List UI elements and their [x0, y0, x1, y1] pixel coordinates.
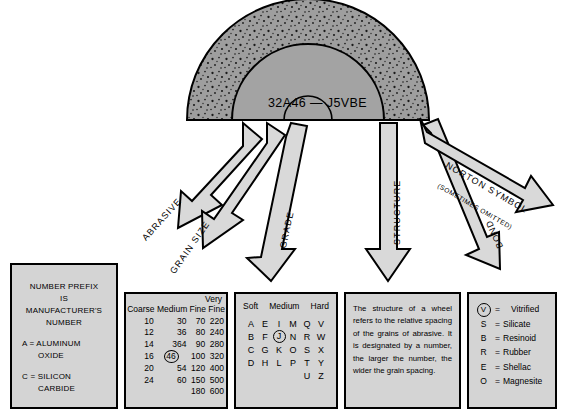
grade-row: DHLPTY — [244, 356, 328, 369]
grain-size-cell: 16 — [126, 350, 156, 363]
grain-size-cell: 20 — [126, 363, 156, 375]
bond-symbol: B — [475, 331, 492, 345]
abrasive-def-aluminum-code: A = ALUMINUM — [22, 339, 81, 348]
grain-size-cell: 10 — [126, 316, 156, 328]
grade-header-row: Soft Medium Hard — [236, 294, 336, 311]
arrow-structure — [366, 123, 410, 281]
grain-size-cell: 240 — [207, 327, 226, 339]
grain-size-cell: 46 — [156, 350, 189, 363]
grade-header-medium: Medium — [269, 301, 299, 311]
grade-cell: V — [314, 317, 328, 330]
grade-cell: Q — [300, 317, 314, 330]
grade-cell — [258, 369, 272, 382]
grain-size-cell: 400 — [207, 363, 226, 375]
grade-header-soft: Soft — [243, 301, 258, 311]
bond-box: V=VitrifiedS=SilicateB=ResinoidR=RubberE… — [467, 292, 557, 409]
grain-size-cell: 150 — [188, 375, 207, 387]
bond-row: S=Silicate — [475, 317, 555, 331]
grade-cell: J — [272, 330, 286, 343]
bond-equals-sign: = — [492, 302, 503, 316]
grain-size-cell: 80 — [188, 327, 207, 339]
grade-cell: D — [244, 356, 258, 369]
abrasive-def-aluminum: A = ALUMINUM OXIDE — [18, 338, 110, 362]
grade-cell: Y — [314, 356, 328, 369]
bond-name: Vitrified — [503, 302, 555, 316]
bond-name: Resinoid — [503, 331, 555, 345]
grade-cell — [244, 369, 258, 382]
grade-cell: F — [258, 330, 272, 343]
grain-size-row: 123680240 — [126, 327, 226, 339]
bond-row: E=Shellac — [475, 360, 555, 374]
bond-row: R=Rubber — [475, 345, 555, 359]
grade-cell: H — [258, 356, 272, 369]
bond-equals-sign: = — [492, 345, 503, 359]
wheel-designation-code: 32A46 — J5VBE — [268, 96, 367, 110]
structure-box: The structure of a wheel refers to the r… — [344, 292, 461, 409]
bond-equals-sign: = — [492, 374, 503, 388]
prefix-line-1: NUMBER PREFIX — [18, 281, 110, 293]
abrasive-def-silicon-cont: CARBIDE — [22, 383, 110, 395]
bond-name: Magnesite — [503, 374, 555, 388]
bond-equals-sign: = — [492, 360, 503, 374]
grain-size-cell — [156, 386, 189, 398]
grade-cell — [272, 369, 286, 382]
bond-equals-sign: = — [492, 317, 503, 331]
grain-header-very-fine: Fine — [207, 304, 226, 316]
number-prefix-box: NUMBER PREFIX IS MANUFACTURER'S NUMBER A… — [10, 263, 118, 409]
structure-description: The structure of a wheel refers to the r… — [346, 294, 459, 386]
grain-size-row: 1436490280 — [126, 339, 226, 351]
grade-cell — [286, 369, 300, 382]
bond-symbol: O — [475, 374, 492, 388]
bond-selected-marker: V — [477, 303, 491, 317]
grade-cell: L — [272, 356, 286, 369]
grade-cell: P — [286, 356, 300, 369]
grain-size-header-row: Coarse Medium Fine Fine — [126, 304, 226, 316]
grain-size-cell: 60 — [156, 375, 189, 387]
grade-cell: G — [258, 343, 272, 356]
grain-size-box: Very Coarse Medium Fine Fine 10307022012… — [124, 292, 228, 409]
grain-size-cell: 36 — [156, 327, 189, 339]
bond-name: Silicate — [503, 317, 555, 331]
grade-cell: N — [286, 330, 300, 343]
grade-cell: K — [272, 343, 286, 356]
grade-box: Soft Medium Hard AEIMQVBFJNRWCGKOSXDHLPT… — [234, 292, 338, 409]
abrasive-def-aluminum-cont: OXIDE — [22, 350, 110, 362]
grain-size-cell: 14 — [126, 339, 156, 351]
bond-name: Shellac — [503, 360, 555, 374]
grain-size-row: 1646100320 — [126, 350, 226, 363]
prefix-line-4: NUMBER — [18, 317, 110, 329]
grain-size-row: 2054120400 — [126, 363, 226, 375]
grain-size-cell: 120 — [188, 363, 207, 375]
grain-size-row: 2460150500 — [126, 375, 226, 387]
bond-row: B=Resinoid — [475, 331, 555, 345]
grain-size-cell: 70 — [188, 316, 207, 328]
bond-row: O=Magnesite — [475, 374, 555, 388]
grade-cell: C — [244, 343, 258, 356]
grain-size-cell: 220 — [207, 316, 226, 328]
bond-symbol: R — [475, 345, 492, 359]
grain-size-row: 103070220 — [126, 316, 226, 328]
grain-size-selected-marker: 46 — [164, 350, 179, 363]
grade-row: BFJNRW — [244, 330, 328, 343]
bond-equals-sign: = — [492, 331, 503, 345]
grain-size-cell: 280 — [207, 339, 226, 351]
grain-size-cell: 180 — [188, 386, 207, 398]
grain-size-cell: 24 — [126, 375, 156, 387]
bond-symbol: E — [475, 360, 492, 374]
abrasive-def-silicon-code: C = SILICON — [22, 372, 71, 381]
grain-size-row: 180600 — [126, 386, 226, 398]
grade-cell: X — [314, 343, 328, 356]
grade-cell: Z — [314, 369, 328, 382]
grain-size-cell: 30 — [156, 316, 189, 328]
grain-header-fine: Fine — [188, 304, 207, 316]
grade-letter-grid: AEIMQVBFJNRWCGKOSXDHLPTYUZ — [244, 317, 328, 382]
grade-cell: S — [300, 343, 314, 356]
grade-cell: T — [300, 356, 314, 369]
grade-cell: B — [244, 330, 258, 343]
grain-size-cell: 100 — [188, 350, 207, 363]
bond-row: V=Vitrified — [475, 302, 555, 317]
diagram-canvas: 32A46 — J5VBE ABRASIVE GRAIN SIZE GRADE … — [0, 0, 564, 418]
grain-size-cell: 54 — [156, 363, 189, 375]
grain-size-cell: 500 — [207, 375, 226, 387]
grade-row: UZ — [244, 369, 328, 382]
